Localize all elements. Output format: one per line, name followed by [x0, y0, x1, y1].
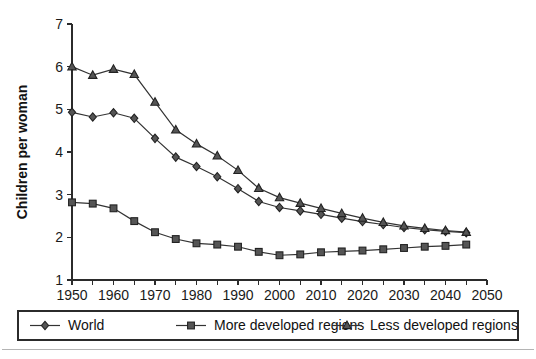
series-more-developed-regions: [69, 199, 470, 259]
data-point-marker: [421, 243, 428, 250]
data-point-marker: [255, 248, 262, 255]
data-point-marker: [442, 242, 449, 249]
y-tick-label: 6: [55, 59, 63, 75]
y-tick-label: 1: [55, 272, 63, 288]
x-tick-label: 1980: [181, 287, 212, 303]
data-point-marker: [89, 200, 96, 207]
data-point-marker: [275, 193, 283, 201]
x-tick-label: 1960: [98, 287, 129, 303]
data-point-marker: [463, 241, 470, 248]
data-point-marker: [69, 199, 76, 206]
data-point-marker: [89, 113, 96, 121]
figure-container: Children per woman 1234567 1950196019701…: [0, 0, 536, 359]
series-line: [72, 112, 466, 232]
series-line: [72, 67, 466, 233]
data-point-marker: [255, 197, 262, 205]
data-point-marker: [401, 245, 408, 252]
axis-lines: [72, 24, 487, 280]
y-axis-title: Children per woman: [14, 85, 30, 220]
y-axis-ticks: 1234567: [55, 16, 72, 288]
data-point-marker: [109, 65, 117, 73]
y-tick-label: 3: [55, 187, 63, 203]
chart-axes: [72, 24, 487, 280]
x-tick-label: 2010: [305, 287, 336, 303]
data-point-marker: [235, 243, 242, 250]
data-point-marker: [152, 229, 159, 236]
y-tick-label: 7: [55, 16, 63, 32]
x-tick-label: 2030: [388, 287, 419, 303]
legend-item-label: Less developed regions: [370, 317, 518, 333]
x-tick-label: 1970: [139, 287, 170, 303]
data-point-marker: [234, 184, 241, 192]
data-point-marker: [110, 205, 117, 212]
x-tick-label: 1990: [222, 287, 253, 303]
x-tick-label: 2020: [347, 287, 378, 303]
data-point-marker: [110, 109, 117, 117]
data-point-marker: [172, 236, 179, 243]
data-point-marker: [297, 251, 304, 258]
data-point-marker: [297, 207, 304, 215]
series-less-developed-regions: [68, 62, 471, 235]
x-tick-label: 1950: [56, 287, 87, 303]
data-point-marker: [276, 203, 283, 211]
data-point-marker: [318, 249, 325, 256]
data-point-marker: [380, 246, 387, 253]
plot-area: [68, 62, 471, 258]
data-point-marker: [214, 173, 221, 181]
y-axis-title-label: Children per woman: [14, 85, 30, 220]
data-point-marker: [234, 166, 242, 174]
chart-legend: WorldMore developed regionsLess develope…: [18, 311, 518, 340]
fertility-line-chart: Children per woman 1234567 1950196019701…: [0, 0, 536, 359]
data-point-marker: [213, 151, 221, 159]
data-point-marker: [131, 218, 138, 225]
legend-marker-icon: [188, 322, 195, 329]
data-point-marker: [192, 139, 200, 147]
y-tick-label: 4: [55, 144, 63, 160]
data-point-marker: [193, 162, 200, 170]
data-point-marker: [193, 240, 200, 247]
legend-item-label: World: [68, 317, 104, 333]
y-tick-label: 5: [55, 101, 63, 117]
x-axis-ticks: 1950196019701980199020002010202020302040…: [56, 280, 502, 303]
x-tick-label: 2000: [264, 287, 295, 303]
y-tick-label: 2: [55, 229, 63, 245]
x-tick-label: 2050: [471, 287, 502, 303]
data-point-marker: [276, 252, 283, 259]
data-point-marker: [214, 241, 221, 248]
data-point-marker: [338, 248, 345, 255]
data-point-marker: [68, 62, 76, 70]
data-point-marker: [359, 247, 366, 254]
x-tick-label: 2040: [430, 287, 461, 303]
